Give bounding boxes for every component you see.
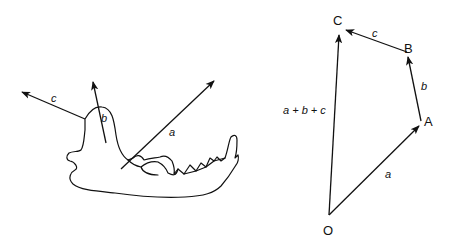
vector-AB-arrow — [408, 57, 421, 121]
point-C-label: C — [333, 13, 342, 28]
vector-a-label: a — [169, 126, 175, 138]
vector-c-label: c — [51, 92, 57, 104]
point-O-label: O — [323, 223, 333, 238]
jaw-panel: c b a — [22, 81, 238, 197]
vector-OC-label: a + b + c — [283, 104, 326, 116]
vector-OA-label: a — [385, 168, 391, 180]
vector-polygon-panel: a b c a + b + c O A B C — [283, 13, 433, 238]
vector-a-arrow — [121, 81, 214, 169]
vector-AB-label: b — [421, 80, 427, 92]
vector-diagram: c b a a b c a + b + c O A B C — [0, 0, 451, 243]
jaw-teeth — [128, 158, 225, 175]
jaw-outline — [67, 107, 239, 197]
vector-OA-arrow — [329, 126, 419, 215]
vector-OC-arrow — [329, 35, 339, 215]
vector-b-label: b — [101, 112, 107, 124]
point-A-label: A — [424, 114, 433, 129]
vector-BC-label: c — [372, 27, 378, 39]
point-B-label: B — [404, 41, 413, 56]
